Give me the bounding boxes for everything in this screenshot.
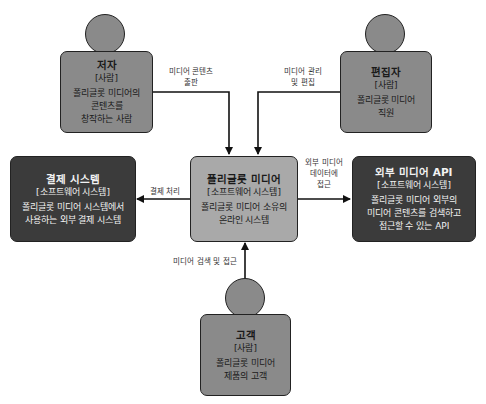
node-description: 폴리글롯 미디어 소유의 온라인 시스템 <box>201 201 287 227</box>
node-title: 폴리글롯 미디어 <box>207 172 281 186</box>
node-description: 폴리글롯 미디어 직원 <box>357 94 416 120</box>
edge-label-line: 및 편집 <box>272 77 334 88</box>
author-node[interactable]: 저자 [사람] 폴리글롯 미디어의 콘텐츠를 창작하는 사람 <box>60 51 153 133</box>
edge-label-line: 미디어 관리 <box>272 66 334 77</box>
edge-label-line: 접근 <box>300 179 348 190</box>
edge-label-line: 미디어 콘텐츠 <box>160 66 222 77</box>
desc-line: 사용하는 외부 결제 시스템 <box>22 214 124 227</box>
context-diagram: 미디어 콘텐츠 출판 미디어 관리 및 편집 결제 처리 외부 미디어 데이터에… <box>0 0 486 404</box>
node-type: [소프트웨어 시스템] <box>36 186 110 199</box>
edge-label-publish: 미디어 콘텐츠 출판 <box>160 66 222 88</box>
desc-line: 직원 <box>357 107 416 120</box>
desc-line: 창작하는 사람 <box>73 113 140 126</box>
payment-system-node[interactable]: 결제 시스템 [소프트웨어 시스템] 폴리글롯 미디어 시스템에서 사용하는 외… <box>10 156 136 242</box>
node-description: 폴리글롯 미디어 시스템에서 사용하는 외부 결제 시스템 <box>22 201 124 227</box>
desc-line: 폴리글롯 미디어 <box>216 357 275 370</box>
desc-line: 폴리글롯 미디어 외부의 <box>367 194 461 207</box>
node-type: [사람] <box>234 342 257 355</box>
edge-label-line: 외부 미디어 <box>300 157 348 168</box>
node-type: [사람] <box>95 72 118 85</box>
node-title: 편집자 <box>371 65 401 79</box>
polyglot-media-node[interactable]: 폴리글롯 미디어 [소프트웨어 시스템] 폴리글롯 미디어 소유의 온라인 시스… <box>190 156 298 242</box>
node-title: 저자 <box>97 58 117 72</box>
edge-author-central <box>152 92 229 154</box>
node-description: 폴리글롯 미디어 외부의 미디어 콘텐츠를 검색하고 접근할 수 있는 API <box>367 194 461 233</box>
desc-line: 콘텐츠를 <box>73 100 140 113</box>
edge-label-line: 미디어 검색 및 접근 <box>166 256 244 267</box>
node-description: 폴리글롯 미디어 제품의 고객 <box>216 357 275 383</box>
editor-node[interactable]: 편집자 [사람] 폴리글롯 미디어 직원 <box>340 51 432 133</box>
desc-line: 접근할 수 있는 API <box>367 220 461 233</box>
edge-label-line: 출판 <box>160 77 222 88</box>
edge-label-external-access: 외부 미디어 데이터에 접근 <box>300 157 348 190</box>
external-media-api-node[interactable]: 외부 미디어 API [소프트웨어 시스템] 폴리글롯 미디어 외부의 미디어 … <box>352 156 476 242</box>
node-type: [소프트웨어 시스템] <box>377 179 451 192</box>
author-head-icon <box>85 14 125 54</box>
edge-label-line: 결제 처리 <box>142 186 188 197</box>
edge-label-search: 미디어 검색 및 접근 <box>166 256 244 267</box>
node-type: [소프트웨어 시스템] <box>207 186 281 199</box>
node-description: 폴리글롯 미디어의 콘텐츠를 창작하는 사람 <box>73 87 140 126</box>
desc-line: 제품의 고객 <box>216 370 275 383</box>
node-title: 결제 시스템 <box>46 172 100 186</box>
node-type: [사람] <box>374 79 397 92</box>
editor-head-icon <box>365 14 405 54</box>
node-title: 외부 미디어 API <box>375 165 452 179</box>
node-title: 고객 <box>236 328 256 342</box>
customer-node[interactable]: 고객 [사람] 폴리글롯 미디어 제품의 고객 <box>200 314 291 396</box>
customer-head-icon <box>225 278 265 318</box>
desc-line: 미디어 콘텐츠를 검색하고 <box>367 207 461 220</box>
edge-label-manage: 미디어 관리 및 편집 <box>272 66 334 88</box>
edge-editor-central <box>258 92 340 154</box>
edge-label-payment: 결제 처리 <box>142 186 188 197</box>
desc-line: 폴리글롯 미디어 시스템에서 <box>22 201 124 214</box>
desc-line: 폴리글롯 미디어 <box>357 94 416 107</box>
desc-line: 온라인 시스템 <box>201 214 287 227</box>
desc-line: 폴리글롯 미디어의 <box>73 87 140 100</box>
edge-label-line: 데이터에 <box>300 168 348 179</box>
desc-line: 폴리글롯 미디어 소유의 <box>201 201 287 214</box>
